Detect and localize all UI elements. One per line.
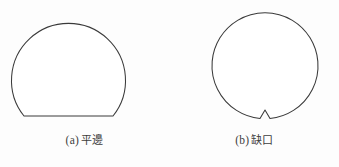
caption-panel-a: (a)平邊 [0, 132, 169, 149]
figure-panel-flat-edge: (a)平邊 [0, 0, 169, 167]
caption-label-b: (b) [235, 134, 249, 146]
notched-wafer-icon [170, 0, 339, 130]
caption-text-b: 缺口 [251, 134, 273, 147]
caption-panel-b: (b)缺口 [170, 132, 339, 149]
figure-board: (a)平邊 (b)缺口 [0, 0, 339, 167]
figure-panel-notch: (b)缺口 [170, 0, 339, 167]
caption-label-a: (a) [66, 134, 79, 146]
caption-text-a: 平邊 [81, 134, 103, 147]
flat-edge-wafer-icon [0, 0, 169, 130]
